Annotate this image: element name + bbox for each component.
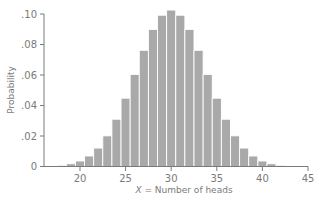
x-tick-label: 35 <box>210 173 223 184</box>
histogram-bar <box>249 156 258 167</box>
histogram-bar <box>194 50 203 166</box>
histogram-bar <box>85 156 94 167</box>
histogram-bar <box>112 119 121 166</box>
y-tick-label: .04 <box>21 100 37 111</box>
y-tick-label: .08 <box>21 39 37 50</box>
histogram-bars <box>48 10 294 167</box>
histogram-bar <box>203 74 212 166</box>
histogram-bar <box>121 98 130 166</box>
histogram-bar <box>103 136 112 167</box>
histogram-bar <box>75 161 84 166</box>
x-axis-title: X = Number of heads <box>134 185 232 195</box>
y-axis-ticks: 0.02.04.06.08.10 <box>21 9 44 173</box>
histogram-bar <box>158 15 167 166</box>
y-tick-label: .06 <box>21 70 37 81</box>
histogram-bar <box>148 29 157 166</box>
x-axis-ticks: 202530354045 <box>74 167 315 185</box>
histogram-bar <box>230 136 239 167</box>
histogram-bar <box>240 148 249 166</box>
histogram-bar <box>176 15 185 166</box>
histogram-bar <box>167 10 176 166</box>
x-tick-label: 25 <box>119 173 132 184</box>
x-axis-title-rest: = Number of heads <box>142 185 233 195</box>
histogram-bar <box>221 119 230 166</box>
histogram-bar <box>139 50 148 166</box>
histogram-bar <box>212 98 221 166</box>
y-tick-label: 0 <box>31 161 37 172</box>
y-tick-label: .10 <box>21 9 37 20</box>
histogram-bar <box>94 148 103 166</box>
histogram-bar <box>185 29 194 166</box>
x-tick-label: 40 <box>256 173 269 184</box>
histogram-bar <box>258 161 267 166</box>
y-axis-title: Probability <box>6 66 16 114</box>
x-tick-label: 45 <box>302 173 315 184</box>
x-tick-label: 20 <box>74 173 87 184</box>
x-tick-label: 30 <box>165 173 178 184</box>
y-tick-label: .02 <box>21 131 37 142</box>
histogram-bar <box>130 74 139 166</box>
binomial-histogram-chart: 0.02.04.06.08.10 202530354045 Probabilit… <box>0 0 325 202</box>
